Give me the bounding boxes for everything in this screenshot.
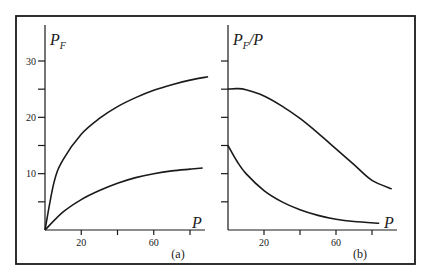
panel-b: 2060PF/PP(b) [221,25,397,261]
y-tick-label: 30 [26,56,36,67]
panel-label: (b) [353,247,367,261]
panel-label: (a) [171,247,184,261]
panel-a: 2060102030PFP(a) [26,25,208,261]
x-axis-label: P [191,214,202,231]
x-tick-label: 20 [76,237,86,248]
data-curve [228,89,392,189]
x-tick-label: 60 [331,237,341,248]
figure: 2060102030PFP(a) 2060PF/PP(b) [0,0,430,280]
x-tick-label: 20 [259,237,269,248]
y-tick-label: 20 [26,112,36,123]
y-tick-label: 10 [26,168,36,179]
data-curve [45,168,203,230]
y-axis-label: PF/P [232,31,263,51]
x-axis-label: P [383,214,394,231]
x-tick-label: 60 [149,237,159,248]
data-curve [228,146,379,224]
y-axis-label: PF [49,31,67,51]
